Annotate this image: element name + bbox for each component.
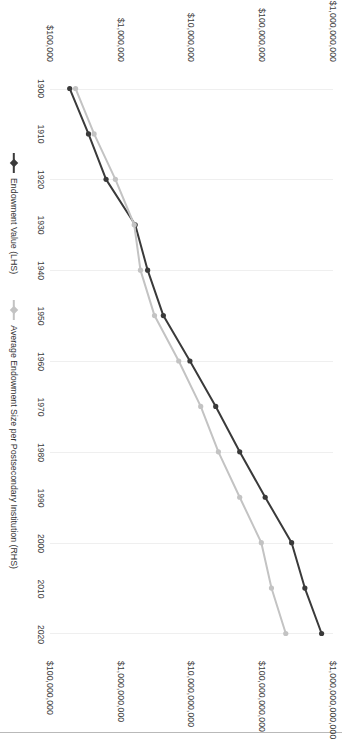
data-point xyxy=(269,585,274,590)
data-point xyxy=(73,86,78,91)
data-point xyxy=(216,449,221,454)
legend-label: Endowment Value (LHS) xyxy=(9,178,19,274)
data-point xyxy=(237,495,242,500)
chart-canvas xyxy=(50,68,333,654)
data-point xyxy=(237,449,242,454)
legend-marker-icon xyxy=(10,300,19,320)
secondary-axis-tick-label: $1,000,000,000 xyxy=(328,0,338,62)
legend-entry[interactable]: Endowment Value (LHS) xyxy=(9,153,19,274)
data-point xyxy=(302,585,307,590)
data-point xyxy=(176,358,181,363)
primary-axis-tick-label: $10,000,000,000 xyxy=(187,661,197,727)
x-axis-year-label: 1970 xyxy=(36,397,46,416)
data-point xyxy=(103,177,108,182)
data-point xyxy=(213,404,218,409)
x-axis-year-label: 1910 xyxy=(36,124,46,143)
x-axis-year-label: 1950 xyxy=(36,306,46,325)
x-axis-year-label: 1990 xyxy=(36,488,46,507)
x-axis-year-label: 1960 xyxy=(36,352,46,371)
data-point xyxy=(198,404,203,409)
x-axis-year-label: 1940 xyxy=(36,261,46,280)
data-point xyxy=(161,313,166,318)
data-point xyxy=(113,177,118,182)
data-point xyxy=(86,131,91,136)
data-point xyxy=(138,268,143,273)
data-point xyxy=(289,540,294,545)
primary-axis-tick-label: $1,000,000,000,000 xyxy=(328,661,338,739)
plot-area xyxy=(50,68,333,654)
secondary-axis-tick-label: $1,000,000 xyxy=(116,0,126,62)
primary-axis-tick-label: $1,000,000,000 xyxy=(116,661,126,722)
data-point xyxy=(283,631,288,636)
data-point xyxy=(91,131,96,136)
legend-marker-icon xyxy=(10,153,19,173)
data-point xyxy=(319,631,324,636)
secondary-axis-tick-label: $100,000,000 xyxy=(257,0,267,62)
x-axis-year-label: 1900 xyxy=(36,79,46,98)
x-axis-year-label: 2020 xyxy=(36,625,46,644)
x-axis-year-label: 1930 xyxy=(36,215,46,234)
data-point xyxy=(132,222,137,227)
x-axis-year-label: 1920 xyxy=(36,170,46,189)
series-line-1 xyxy=(70,89,322,634)
chart-legend: Endowment Value (LHS)Average Endowment S… xyxy=(4,68,24,654)
primary-axis-tick-label: $100,000,000,000 xyxy=(257,661,267,732)
x-axis-year-label: 2010 xyxy=(36,579,46,598)
data-point xyxy=(259,540,264,545)
legend-entry[interactable]: Average Endowment Size per Postsecondary… xyxy=(9,300,19,569)
data-point xyxy=(152,313,157,318)
x-axis-year-label: 1980 xyxy=(36,443,46,462)
secondary-axis-tick-label: $100,000 xyxy=(45,0,55,62)
x-axis-year-label: 2000 xyxy=(36,534,46,553)
primary-axis-tick-label: $100,000,000 xyxy=(45,661,55,715)
data-point xyxy=(145,268,150,273)
secondary-axis-tick-label: $10,000,000 xyxy=(187,0,197,62)
data-point xyxy=(263,495,268,500)
data-point xyxy=(67,86,72,91)
legend-label: Average Endowment Size per Postsecondary… xyxy=(9,325,19,569)
data-point xyxy=(187,358,192,363)
